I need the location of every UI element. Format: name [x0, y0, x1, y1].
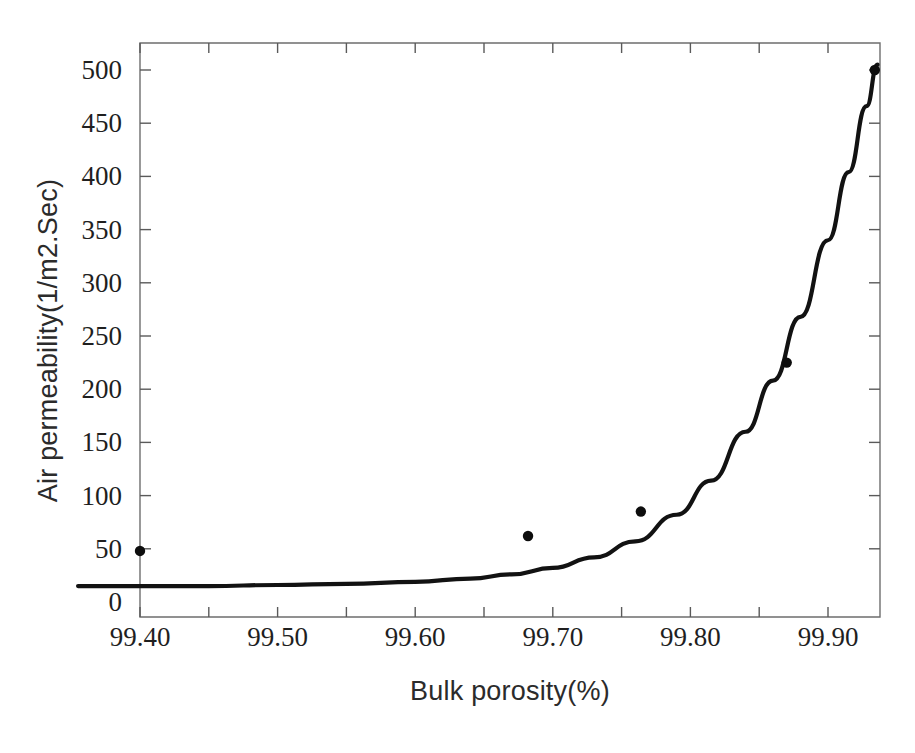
data-point	[523, 531, 533, 541]
data-point	[636, 506, 646, 516]
tick-mark-group	[140, 43, 880, 617]
plot-area	[0, 0, 915, 753]
data-point	[870, 65, 880, 75]
data-point-group	[135, 65, 880, 556]
data-point	[782, 357, 792, 367]
data-point	[135, 546, 145, 556]
fitted-curve-group	[78, 65, 877, 586]
chart-figure: Air permeability(1/m2.Sec) Bulk porosity…	[0, 0, 915, 753]
axis-frame	[140, 43, 880, 617]
fitted-curve	[78, 65, 877, 586]
